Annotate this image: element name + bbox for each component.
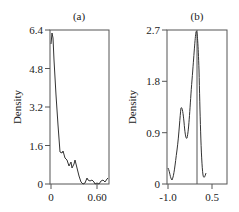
panel-a-frame — [50, 30, 109, 184]
panel-b-ytick: 0 — [155, 178, 161, 190]
panel-b-xtick: 0.5 — [205, 191, 219, 203]
panel-b-density-curve — [168, 31, 206, 180]
panel-b-ytick: 0.9 — [146, 127, 160, 139]
panel-a-ytick: 6.4 — [29, 24, 43, 36]
panel-a-xtick: 0.60 — [87, 191, 107, 203]
figure: (a) 6.4 4.8 3.2 1.6 0 0 0.60 Density (b) — [0, 0, 239, 212]
panel-b-xtick: -1.0 — [159, 191, 177, 203]
panel-b-ytick: 1.8 — [146, 75, 160, 87]
panel-a-xtick: 0 — [48, 191, 54, 203]
panel-b: (b) 2.7 1.8 0.9 0 -1.0 0.5 Density — [126, 10, 227, 203]
panel-a-ytick: 1.6 — [29, 140, 43, 152]
panel-a-ytick: 4.8 — [29, 63, 43, 75]
panel-a-ylabel: Density — [11, 89, 23, 124]
panel-b-y-ticks: 2.7 1.8 0.9 0 — [146, 24, 167, 190]
panel-a-ytick: 0 — [38, 178, 44, 190]
panel-b-ylabel: Density — [126, 89, 138, 124]
panel-a-density-curve — [51, 33, 108, 184]
panel-a-ytick: 3.2 — [29, 101, 43, 113]
panel-b-x-ticks: -1.0 0.5 — [159, 184, 219, 203]
panel-a-x-ticks: 0 0.60 — [48, 184, 107, 203]
panel-a-title: (a) — [73, 10, 86, 23]
panel-a: (a) 6.4 4.8 3.2 1.6 0 0 0.60 Density — [11, 10, 109, 203]
panel-b-ytick: 2.7 — [146, 24, 160, 36]
panel-b-title: (b) — [191, 10, 204, 23]
panel-a-y-ticks: 6.4 4.8 3.2 1.6 0 — [29, 24, 50, 190]
